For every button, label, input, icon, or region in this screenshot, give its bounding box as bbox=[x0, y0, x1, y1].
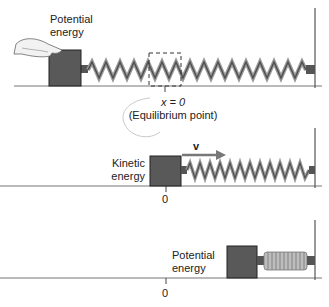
tick-label-zero: 0 bbox=[162, 193, 168, 206]
panel-2 bbox=[0, 128, 322, 192]
tick-label-zero: 0 bbox=[162, 287, 168, 300]
arrow-head-icon bbox=[216, 150, 226, 160]
equilibrium-point-text: (Equilibrium point) bbox=[118, 109, 228, 122]
label-line-1: Kinetic bbox=[103, 157, 145, 170]
panel-3 bbox=[0, 220, 322, 284]
panel-1-energy-label: Potential energy bbox=[50, 13, 93, 39]
x-equals-zero: x = 0 bbox=[118, 96, 228, 109]
label-line-1: Potential bbox=[50, 13, 93, 26]
panel-3-energy-label: Potential energy bbox=[172, 249, 215, 275]
block bbox=[150, 156, 181, 186]
label-line-2: energy bbox=[50, 26, 93, 39]
spring-extended bbox=[80, 62, 315, 78]
label-line-2: energy bbox=[172, 262, 215, 275]
label-line-1: Potential bbox=[172, 249, 215, 262]
spring-natural bbox=[181, 163, 315, 178]
block bbox=[49, 50, 81, 86]
equilibrium-label: x = 0 (Equilibrium point) bbox=[118, 96, 228, 122]
velocity-label: v bbox=[193, 140, 199, 153]
spring-compressed bbox=[257, 252, 315, 270]
block bbox=[227, 246, 257, 278]
spring-energy-diagram bbox=[0, 0, 329, 307]
panel-2-energy-label: Kinetic energy bbox=[103, 157, 145, 183]
label-line-2: energy bbox=[103, 170, 145, 183]
